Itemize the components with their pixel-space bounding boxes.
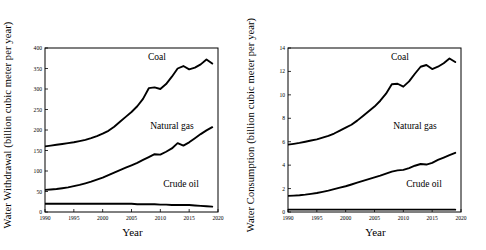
x-tick-label: 2005 bbox=[369, 215, 380, 221]
x-tick-label: 1990 bbox=[39, 215, 50, 221]
series-line-natural-gas bbox=[288, 153, 455, 196]
y-tick-label: 2 bbox=[282, 186, 285, 192]
x-tick-label: 2020 bbox=[455, 215, 466, 221]
x-axis-title-consumption: Year bbox=[288, 226, 463, 238]
y-tick-label: 250 bbox=[34, 107, 43, 113]
y-tick-label: 12 bbox=[279, 68, 285, 74]
y-tick-label: 400 bbox=[34, 45, 43, 51]
y-tick-label: 200 bbox=[34, 127, 43, 133]
x-tick-label: 1995 bbox=[311, 215, 322, 221]
x-tick-label: 2015 bbox=[427, 215, 438, 221]
series-annotation-crude-oil: Crude oil bbox=[406, 179, 442, 189]
x-tick-label: 2000 bbox=[340, 215, 351, 221]
series-annotation-coal: Coal bbox=[391, 52, 409, 62]
y-tick-label: 6 bbox=[282, 139, 285, 145]
y-tick-label: 150 bbox=[34, 148, 43, 154]
y-tick-label: 300 bbox=[34, 86, 43, 92]
series-line-coal bbox=[45, 59, 212, 146]
x-tick-label: 2010 bbox=[155, 215, 166, 221]
x-tick-label: 2015 bbox=[184, 215, 195, 221]
y-tick-label: 14 bbox=[279, 45, 285, 51]
series-line-coal bbox=[288, 59, 455, 145]
x-tick-label: 2020 bbox=[212, 215, 223, 221]
plot-area-consumption: 024681012141990199520002005201020152020C… bbox=[243, 0, 486, 250]
x-tick-label: 1995 bbox=[68, 215, 79, 221]
plot-area-withdrawal: 0501001502002503003504001990199520002005… bbox=[0, 0, 243, 250]
series-annotation-crude-oil: Crude oil bbox=[163, 179, 199, 189]
y-tick-label: 100 bbox=[34, 168, 43, 174]
x-tick-label: 2000 bbox=[97, 215, 108, 221]
panel-water-consumption: Water Consumption (billion cubic meter p… bbox=[243, 0, 486, 250]
y-tick-label: 350 bbox=[34, 66, 43, 72]
x-tick-label: 2005 bbox=[126, 215, 137, 221]
y-tick-label: 4 bbox=[282, 162, 285, 168]
y-tick-label: 10 bbox=[279, 92, 285, 98]
series-annotation-coal: Coal bbox=[148, 52, 166, 62]
panel-water-withdrawal: Water Withdrawal (billion cubic meter pe… bbox=[0, 0, 243, 250]
x-tick-label: 2010 bbox=[398, 215, 409, 221]
y-tick-label: 8 bbox=[282, 115, 285, 121]
series-line-crude-oil bbox=[45, 204, 212, 207]
series-annotation-natural-gas: Natural gas bbox=[150, 121, 194, 131]
x-axis-title-withdrawal: Year bbox=[45, 226, 220, 238]
x-tick-label: 1990 bbox=[282, 215, 293, 221]
figure-two-panel-line-charts: Water Withdrawal (billion cubic meter pe… bbox=[0, 0, 486, 250]
y-tick-label: 50 bbox=[36, 189, 42, 195]
series-annotation-natural-gas: Natural gas bbox=[393, 121, 437, 131]
